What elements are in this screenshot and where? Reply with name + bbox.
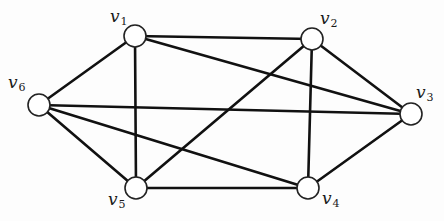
edge-v1-v5 [135, 36, 136, 188]
edge-v5-v6 [39, 105, 136, 188]
node-label-v2: v2 [320, 10, 338, 29]
node-v4 [297, 177, 319, 199]
edge-v2-v3 [312, 39, 411, 114]
edge-v1-v6 [39, 36, 135, 105]
node-label-v4: v4 [322, 190, 340, 209]
node-v2 [301, 28, 323, 50]
edge-v1-v2 [135, 36, 312, 39]
node-v6 [28, 94, 50, 116]
node-label-v1: v1 [110, 8, 128, 27]
node-v3 [400, 103, 422, 125]
edges-group [39, 36, 411, 188]
node-v1 [124, 25, 146, 47]
edge-v1-v3 [135, 36, 411, 114]
edge-v2-v4 [308, 39, 312, 188]
node-label-v3: v3 [416, 84, 434, 103]
graph-diagram: v1 v2 v3 v4 v5 v6 [0, 0, 444, 221]
graph-canvas [0, 0, 444, 221]
node-label-v6: v6 [8, 74, 26, 93]
edge-v4-v6 [39, 105, 308, 188]
node-label-v5: v5 [108, 191, 126, 210]
node-v5 [125, 177, 147, 199]
edge-v3-v4 [308, 114, 411, 188]
